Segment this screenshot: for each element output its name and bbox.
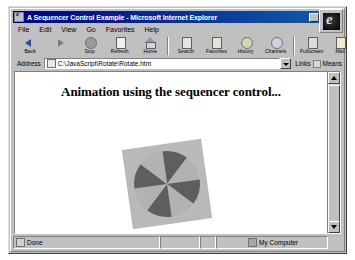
resize-grip[interactable]: [328, 236, 342, 249]
links-item[interactable]: Means: [313, 60, 342, 68]
toolbar-button-refresh[interactable]: Refresh: [105, 36, 135, 56]
toolbar-label-favorites: Favorites: [206, 48, 227, 54]
links-label: Links: [295, 60, 313, 67]
address-dropdown-button[interactable]: [280, 58, 291, 69]
status-message: Done: [13, 236, 160, 249]
toolbar-button-channels[interactable]: Channels: [261, 36, 291, 56]
links-item-label: Means: [322, 60, 342, 67]
toolbar-separator-2: [293, 37, 295, 55]
toolbar-button-favorites[interactable]: Favorites: [201, 36, 231, 56]
pinwheel-canvas: [122, 139, 212, 229]
browser-window: A Sequencer Control Example - Microsoft …: [8, 6, 347, 254]
title-bar[interactable]: A Sequencer Control Example - Microsoft …: [13, 11, 342, 23]
page-viewport: Animation using the sequencer control...: [15, 72, 327, 233]
history-icon: [239, 37, 253, 48]
toolbar-label-home: Home: [143, 48, 156, 54]
scroll-down-button[interactable]: [328, 221, 340, 233]
scroll-up-button[interactable]: [328, 72, 340, 84]
link-favicon-icon: [313, 60, 321, 68]
toolbar-button-back[interactable]: Back: [15, 36, 45, 56]
ie-logo-animation-button[interactable]: [319, 9, 343, 33]
menu-item-favorites[interactable]: Favorites: [101, 24, 140, 36]
toolbar-button-forward[interactable]: Forward: [45, 36, 75, 56]
vertical-scrollbar[interactable]: [327, 72, 340, 233]
toolbar-button-history[interactable]: History: [231, 36, 261, 56]
security-zone-label: My Computer: [259, 239, 298, 246]
mail-icon: [333, 37, 347, 48]
toolbar-button-home[interactable]: Home: [135, 36, 165, 56]
ie-logo-icon: [323, 13, 340, 30]
search-icon: [179, 37, 193, 48]
toolbar-label-history: History: [238, 48, 254, 54]
refresh-icon: [113, 37, 127, 48]
pinwheel-svg: [122, 139, 212, 229]
toolbar-label-refresh: Refresh: [111, 48, 129, 54]
done-icon: [16, 238, 25, 247]
window-inner-bevel: A Sequencer Control Example - Microsoft …: [10, 8, 345, 252]
address-bar: Address C:\JavaScript\Rotate\Rotate.htm …: [13, 57, 342, 70]
minimize-button[interactable]: _: [309, 13, 319, 22]
toolbar-label-back: Back: [24, 48, 35, 54]
page-title: Animation using the sequencer control...: [15, 84, 327, 100]
toolbar-separator: [167, 37, 169, 55]
toolbar-button-fullscreen[interactable]: Fullscreen: [297, 36, 327, 56]
toolbar: Back Forward Stop Refresh Home S: [13, 36, 316, 57]
forward-arrow-icon: [53, 37, 67, 48]
links-bar: Links Means: [291, 60, 342, 68]
toolbar-button-stop[interactable]: Stop: [75, 36, 105, 56]
menu-bar: File Edit View Go Favorites Help: [13, 24, 342, 36]
fullscreen-icon: [305, 37, 319, 48]
menu-item-view[interactable]: View: [56, 24, 81, 36]
back-arrow-icon: [23, 37, 37, 48]
content-frame: Animation using the sequencer control...: [14, 71, 341, 234]
home-icon: [143, 37, 157, 48]
address-url-text: C:\JavaScript\Rotate\Rotate.htm: [58, 60, 151, 67]
address-label: Address: [13, 60, 44, 67]
favorites-icon: [209, 37, 223, 48]
window-title: A Sequencer Control Example - Microsoft …: [27, 14, 308, 21]
minimize-icon: _: [310, 16, 318, 20]
scrollbar-thumb[interactable]: [328, 85, 340, 230]
menu-item-go[interactable]: Go: [81, 24, 100, 36]
toolbar-label-search: Search: [178, 48, 194, 54]
my-computer-icon: [248, 238, 257, 247]
security-zone[interactable]: My Computer: [216, 236, 328, 249]
document-icon: [47, 59, 56, 68]
channels-icon: [269, 37, 283, 48]
status-panel-icons: [200, 236, 216, 249]
menu-item-help[interactable]: Help: [140, 24, 164, 36]
stop-icon: [83, 37, 97, 48]
toolbar-label-channels: Channels: [265, 48, 286, 54]
toolbar-label-mail: Mail: [335, 48, 344, 54]
toolbar-button-mail[interactable]: Mail: [327, 36, 353, 56]
toolbar-label-fullscreen: Fullscreen: [300, 48, 323, 54]
address-input[interactable]: C:\JavaScript\Rotate\Rotate.htm: [44, 58, 280, 69]
pinwheel-animation: [127, 144, 207, 224]
status-text: Done: [27, 239, 43, 246]
ie-document-icon: [14, 12, 24, 22]
toolbar-label-stop: Stop: [85, 48, 95, 54]
menu-item-file[interactable]: File: [13, 24, 34, 36]
status-panel-progress: [160, 236, 200, 249]
toolbar-button-search[interactable]: Search: [171, 36, 201, 56]
menu-item-edit[interactable]: Edit: [34, 24, 56, 36]
status-bar: Done My Computer: [13, 236, 342, 249]
